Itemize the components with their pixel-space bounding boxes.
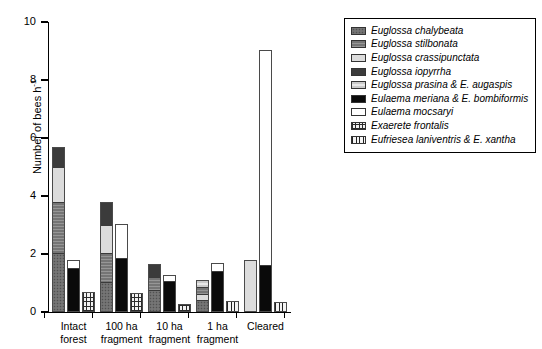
y-tick-10 xyxy=(41,21,48,22)
stacked-bar[interactable] xyxy=(274,302,287,312)
x-group-label-line-1: fragment xyxy=(179,333,257,346)
legend-label: Euglossa chalybeata xyxy=(371,26,463,36)
y-tick-2 xyxy=(41,253,48,254)
stacked-bar[interactable] xyxy=(115,224,128,312)
bar-segment-stilbonata xyxy=(101,254,112,282)
bar-segment-stilbonata xyxy=(149,278,160,291)
stacked-bar[interactable] xyxy=(67,260,80,312)
stacked-bar[interactable] xyxy=(148,264,161,312)
legend-item-mocsaryi[interactable]: Eulaema mocsaryi xyxy=(351,106,529,120)
y-tick-label-2: 2 xyxy=(12,248,36,259)
chart-figure: Number of bees h-1 Euglossa chalybeataEu… xyxy=(0,0,542,349)
legend-label: Exaerete frontalis xyxy=(371,121,449,131)
legend-label: Euglossa prasina & E. augaspis xyxy=(371,80,512,90)
bar-segment-meriana xyxy=(164,282,175,311)
x-tick xyxy=(92,312,93,318)
stacked-bar[interactable] xyxy=(130,293,143,312)
bar-segment-laniventris xyxy=(227,302,238,311)
x-tick xyxy=(284,312,285,318)
x-tick xyxy=(140,312,141,318)
x-group-label-line-0: Cleared xyxy=(227,320,305,333)
bar-segment-mocsaryi xyxy=(260,51,271,266)
legend-label: Eufriesea laniventris & E. xantha xyxy=(371,135,516,145)
bar-segment-crassipunctata xyxy=(53,168,64,203)
bar-segment-iopyrrha xyxy=(53,148,64,168)
x-tick xyxy=(236,312,237,318)
bar-segment-mocsaryi xyxy=(68,261,79,269)
stacked-bar[interactable] xyxy=(52,147,65,312)
bar-segment-chalybeata xyxy=(149,291,160,311)
y-tick-4 xyxy=(41,195,48,196)
legend-swatch-crassipunctata xyxy=(351,54,366,62)
y-tick-label-4: 4 xyxy=(12,190,36,201)
stacked-bar[interactable] xyxy=(196,280,209,312)
y-tick-label-8: 8 xyxy=(12,74,36,85)
bar-segment-crassipunctata xyxy=(245,261,256,311)
bar-segment-chalybeata xyxy=(101,283,112,311)
x-tick xyxy=(188,312,189,318)
legend-item-stilbonata[interactable]: Euglossa stilbonata xyxy=(351,38,529,52)
legend-label: Eulaema mocsaryi xyxy=(371,107,453,117)
y-tick-6 xyxy=(41,137,48,138)
legend-item-laniventris[interactable]: Eufriesea laniventris & E. xantha xyxy=(351,133,529,147)
bar-segment-chalybeata xyxy=(53,254,64,311)
bar-group xyxy=(148,22,191,312)
legend-swatch-iopyrrha xyxy=(351,68,366,76)
legend-swatch-meriana xyxy=(351,95,366,103)
plot-area xyxy=(48,22,290,312)
legend-item-chalybeata[interactable]: Euglossa chalybeata xyxy=(351,24,529,38)
legend-label: Euglossa crassipunctata xyxy=(371,53,479,63)
stacked-bar[interactable] xyxy=(211,263,224,312)
legend-swatch-mocsaryi xyxy=(351,108,366,116)
bar-group xyxy=(52,22,95,312)
bar-segment-iopyrrha xyxy=(149,265,160,278)
legend-swatch-laniventris xyxy=(351,136,366,144)
y-tick-label-10: 10 xyxy=(12,16,36,27)
stacked-bar[interactable] xyxy=(163,275,176,312)
stacked-bar[interactable] xyxy=(244,260,257,312)
legend-swatch-stilbonata xyxy=(351,40,366,48)
stacked-bar[interactable] xyxy=(82,292,95,312)
legend-item-meriana[interactable]: Eulaema meriana & E. bombiformis xyxy=(351,92,529,106)
legend-item-prasina[interactable]: Euglossa prasina & E. augaspis xyxy=(351,78,529,92)
bar-segment-iopyrrha xyxy=(101,203,112,226)
stacked-bar[interactable] xyxy=(178,304,191,312)
bar-segment-frontalis xyxy=(131,294,142,311)
chart-legend: Euglossa chalybeataEuglossa stilbonataEu… xyxy=(344,18,536,153)
bar-segment-frontalis xyxy=(83,293,94,311)
bar-segment-laniventris xyxy=(275,303,286,311)
legend-item-crassipunctata[interactable]: Euglossa crassipunctata xyxy=(351,51,529,65)
x-tick xyxy=(44,312,45,318)
bar-segment-frontalis xyxy=(179,305,190,311)
stacked-bar[interactable] xyxy=(100,202,113,312)
bar-segment-stilbonata xyxy=(53,203,64,254)
bar-segment-meriana xyxy=(116,259,127,311)
bar-group xyxy=(196,22,239,312)
y-axis-title: Number of bees h-1 xyxy=(29,47,43,207)
bar-segment-mocsaryi xyxy=(212,264,223,271)
y-tick-label-0: 0 xyxy=(12,306,36,317)
legend-label: Eulaema meriana & E. bombiformis xyxy=(371,94,528,104)
stacked-bar[interactable] xyxy=(259,50,272,312)
legend-item-iopyrrha[interactable]: Euglossa iopyrrha xyxy=(351,65,529,79)
legend-swatch-chalybeata xyxy=(351,27,366,35)
bar-segment-mocsaryi xyxy=(116,225,127,260)
legend-swatch-frontalis xyxy=(351,122,366,130)
legend-label: Euglossa stilbonata xyxy=(371,39,458,49)
bar-segment-stilbonata xyxy=(197,288,208,295)
stacked-bar[interactable] xyxy=(226,301,239,312)
legend-item-frontalis[interactable]: Exaerete frontalis xyxy=(351,119,529,133)
y-tick-8 xyxy=(41,79,48,80)
bar-group xyxy=(100,22,143,312)
legend-label: Euglossa iopyrrha xyxy=(371,67,451,77)
x-group-label: Cleared xyxy=(227,320,305,333)
bar-segment-crassipunctata xyxy=(101,226,112,254)
bar-segment-meriana xyxy=(68,269,79,311)
bar-segment-meriana xyxy=(212,272,223,311)
bar-segment-meriana xyxy=(260,266,271,311)
bar-segment-prasina xyxy=(197,281,208,288)
y-tick-label-6: 6 xyxy=(12,132,36,143)
bar-group xyxy=(244,22,287,312)
legend-swatch-prasina xyxy=(351,81,366,89)
bar-segment-chalybeata xyxy=(197,301,208,311)
